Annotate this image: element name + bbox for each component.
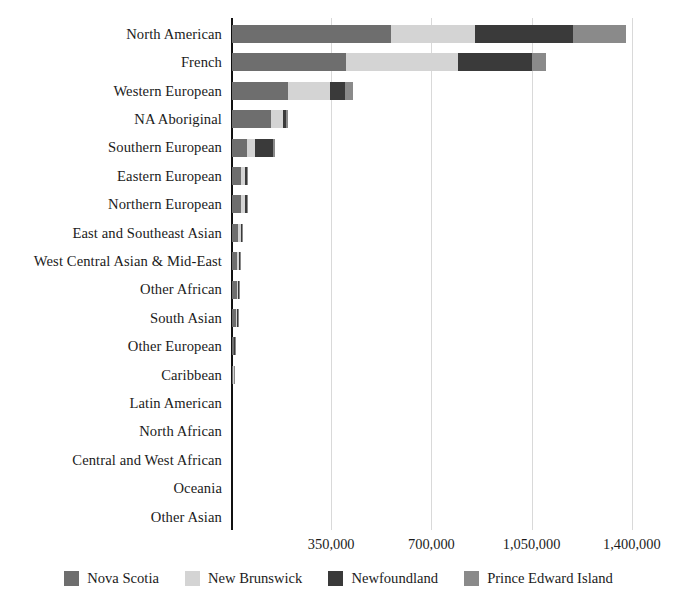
bar-row: North American: [0, 20, 677, 48]
category-label: West Central Asian & Mid-East: [0, 254, 222, 269]
bar-row: Central and West African: [0, 446, 677, 474]
stacked-bar: [232, 110, 288, 128]
bar-row: West Central Asian & Mid-East: [0, 247, 677, 275]
legend-swatch-icon: [328, 571, 343, 586]
stacked-bar: [232, 337, 235, 355]
category-label: Other Asian: [0, 510, 222, 525]
bar-row: East and Southeast Asian: [0, 219, 677, 247]
bar-segment-new-brunswick: [288, 82, 331, 100]
bar-segment-nova-scotia: [232, 139, 247, 157]
bar-row: South Asian: [0, 304, 677, 332]
bar-segment-prince-edward-island: [532, 53, 546, 71]
bar-segment-prince-edward-island: [242, 224, 243, 242]
legend-swatch-icon: [464, 571, 479, 586]
bar-segment-newfoundland: [255, 139, 273, 157]
bar-row: Other Asian: [0, 503, 677, 531]
stacked-bar: [232, 167, 247, 185]
bar-segment-newfoundland: [330, 82, 345, 100]
category-label: North American: [0, 27, 222, 42]
category-label: Northern European: [0, 197, 222, 212]
category-label: NA Aboriginal: [0, 112, 222, 127]
bar-segment-prince-edward-island: [247, 167, 248, 185]
bar-segment-new-brunswick: [271, 110, 283, 128]
x-tick-label: 350,000: [308, 536, 355, 553]
bar-row: Eastern European: [0, 162, 677, 190]
stacked-bar: [232, 25, 626, 43]
stacked-bar: [232, 224, 243, 242]
legend-swatch-icon: [64, 571, 79, 586]
bar-segment-newfoundland: [475, 25, 572, 43]
x-tick-label: 1,400,000: [603, 536, 661, 553]
chart-legend: Nova ScotiaNew BrunswickNewfoundlandPrin…: [0, 570, 677, 587]
bar-row: Western European: [0, 77, 677, 105]
bar-row: Other African: [0, 276, 677, 304]
category-label: Central and West African: [0, 453, 222, 468]
bar-segment-nova-scotia: [232, 195, 241, 213]
stacked-bar: [232, 139, 275, 157]
legend-label: New Brunswick: [208, 570, 302, 587]
category-label: Western European: [0, 84, 222, 99]
bar-segment-new-brunswick: [346, 53, 458, 71]
bar-segment-nova-scotia: [232, 110, 271, 128]
legend-item[interactable]: New Brunswick: [185, 570, 302, 587]
bar-row: Southern European: [0, 134, 677, 162]
category-label: East and Southeast Asian: [0, 226, 222, 241]
legend-label: Nova Scotia: [87, 570, 159, 587]
legend-label: Prince Edward Island: [487, 570, 613, 587]
x-tick-label: 700,000: [408, 536, 455, 553]
bar-segment-nova-scotia: [232, 82, 288, 100]
bar-row: NA Aboriginal: [0, 105, 677, 133]
stacked-bar: [232, 281, 239, 299]
stacked-bar: [232, 366, 234, 384]
plot-area: North AmericanFrenchWestern EuropeanNA A…: [0, 0, 677, 534]
legend-item[interactable]: Newfoundland: [328, 570, 438, 587]
bar-segment-nova-scotia: [232, 167, 241, 185]
bar-segment-prince-edward-island: [573, 25, 627, 43]
category-label: Latin American: [0, 396, 222, 411]
stacked-bar: [232, 82, 353, 100]
bar-row: Caribbean: [0, 361, 677, 389]
category-label: South Asian: [0, 311, 222, 326]
category-label: Other African: [0, 282, 222, 297]
stacked-bar: [232, 252, 241, 270]
category-label: Eastern European: [0, 169, 222, 184]
bar-segment-prince-edward-island: [286, 110, 288, 128]
category-label: Other European: [0, 339, 222, 354]
bar-row: French: [0, 48, 677, 76]
bar-segment-prince-edward-island: [247, 195, 248, 213]
bar-row: Oceania: [0, 474, 677, 502]
stacked-bar: [232, 309, 238, 327]
bar-row: Northern European: [0, 190, 677, 218]
stacked-bar: [232, 195, 247, 213]
legend-item[interactable]: Prince Edward Island: [464, 570, 613, 587]
category-label: North African: [0, 424, 222, 439]
bar-segment-new-brunswick: [247, 139, 255, 157]
bar-segment-new-brunswick: [391, 25, 475, 43]
bar-segment-nova-scotia: [232, 25, 391, 43]
bar-row: North African: [0, 418, 677, 446]
legend-swatch-icon: [185, 571, 200, 586]
bar-segment-nova-scotia: [232, 53, 346, 71]
category-label: French: [0, 55, 222, 70]
bar-segment-newfoundland: [458, 53, 532, 71]
legend-label: Newfoundland: [351, 570, 438, 587]
bar-segment-prince-edward-island: [345, 82, 353, 100]
stacked-bar-chart: North AmericanFrenchWestern EuropeanNA A…: [0, 0, 677, 606]
bar-segment-prince-edward-island: [273, 139, 276, 157]
legend-item[interactable]: Nova Scotia: [64, 570, 159, 587]
category-label: Southern European: [0, 140, 222, 155]
x-tick-label: 1,050,000: [503, 536, 561, 553]
category-label: Oceania: [0, 481, 222, 496]
stacked-bar: [232, 53, 546, 71]
bar-segment-prince-edward-island: [240, 252, 241, 270]
bar-row: Latin American: [0, 389, 677, 417]
category-label: Caribbean: [0, 368, 222, 383]
bar-row: Other European: [0, 332, 677, 360]
